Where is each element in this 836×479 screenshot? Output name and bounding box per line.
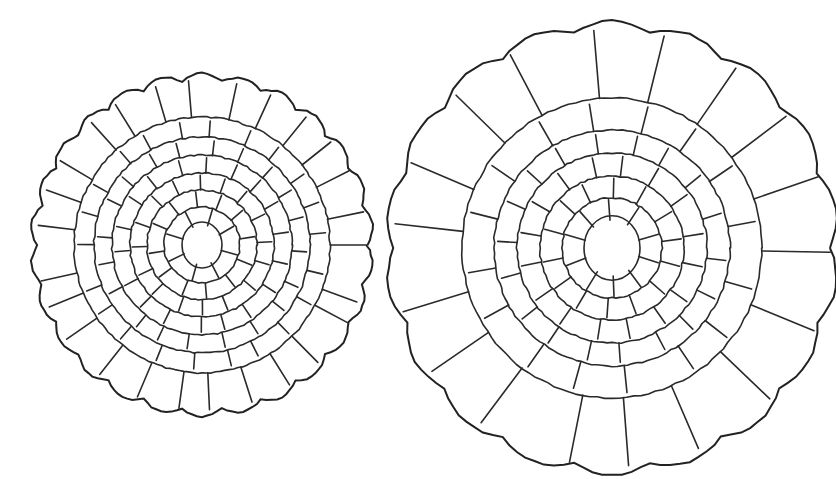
cell-wall xyxy=(284,281,298,287)
cell-wall xyxy=(143,136,151,150)
small-root-section xyxy=(31,73,373,418)
cell-wall xyxy=(592,158,596,178)
cell-wall xyxy=(660,261,679,266)
cell-wall xyxy=(250,180,260,191)
cell-wall xyxy=(297,297,311,305)
central-cell xyxy=(182,222,222,268)
cell-wall xyxy=(432,333,488,372)
cell-wall xyxy=(613,178,614,198)
cell-wall xyxy=(316,171,349,188)
cell-wall xyxy=(152,284,163,294)
cell-wall xyxy=(703,213,722,219)
cell-wall xyxy=(209,121,210,137)
cell-wall xyxy=(237,191,247,202)
cell-wall xyxy=(129,197,142,206)
cell-wall xyxy=(607,298,608,318)
cell-wall xyxy=(292,336,318,362)
cell-wall xyxy=(125,279,139,286)
cell-wall xyxy=(179,297,184,311)
cell-wall xyxy=(492,166,515,182)
cell-wall xyxy=(87,285,102,291)
cell-wall xyxy=(291,174,304,183)
cell-wall xyxy=(229,84,237,120)
cell-wall xyxy=(228,350,232,366)
cell-wall xyxy=(327,212,363,219)
cell-wall xyxy=(169,254,184,261)
cell-wall xyxy=(150,154,157,167)
cell-wall xyxy=(278,322,289,334)
cell-wall xyxy=(250,321,258,334)
cell-wall xyxy=(237,259,251,265)
cell-wall xyxy=(485,305,509,318)
cell-wall xyxy=(265,202,278,210)
cell-wall xyxy=(270,354,290,385)
cell-wall xyxy=(556,149,566,166)
cell-wall xyxy=(153,223,167,229)
cell-wall xyxy=(683,263,703,267)
figure-canvas xyxy=(0,0,836,479)
cell-wall xyxy=(302,142,331,165)
cell-wall xyxy=(648,36,664,102)
cell-wall xyxy=(120,152,131,164)
cell-wall xyxy=(620,157,622,177)
cell-wall xyxy=(471,212,498,219)
cell-wall xyxy=(222,296,228,310)
cell-wall xyxy=(164,310,171,324)
cell-wall xyxy=(539,122,553,146)
cell-wall xyxy=(705,321,727,338)
cell-wall xyxy=(47,190,82,202)
cell-wall xyxy=(167,234,183,239)
cell-wall xyxy=(222,333,225,347)
cell-wall xyxy=(156,345,162,360)
cell-wall xyxy=(754,177,819,199)
cell-wall xyxy=(697,290,715,299)
cell-wall xyxy=(136,223,150,228)
cell-wall xyxy=(654,307,666,323)
cell-wall xyxy=(292,251,307,252)
cell-ring-boundary xyxy=(462,98,763,399)
cell-wall xyxy=(149,251,164,253)
cell-wall xyxy=(576,291,586,308)
cell-wall xyxy=(173,182,179,195)
cell-wall xyxy=(303,202,318,208)
cell-wall xyxy=(510,55,542,115)
cell-wall xyxy=(117,227,132,230)
cell-wall xyxy=(636,187,646,204)
cell-wall xyxy=(609,200,611,221)
cell-wall xyxy=(245,131,251,146)
cell-wall xyxy=(176,144,180,158)
cell-wall xyxy=(598,319,601,339)
cell-wall xyxy=(680,129,696,152)
cell-wall xyxy=(273,232,288,234)
cell-wall xyxy=(521,233,541,236)
cell-wall xyxy=(221,315,225,330)
cell-wall xyxy=(655,212,672,222)
large-root-section xyxy=(387,20,836,475)
cell-wall xyxy=(532,202,549,212)
cell-wall xyxy=(656,332,665,349)
cell-wall xyxy=(152,196,163,206)
cell-wall xyxy=(498,241,518,242)
cell-wall xyxy=(67,318,97,339)
cell-wall xyxy=(322,289,357,302)
cell-wall xyxy=(139,269,152,275)
cell-wall xyxy=(109,287,122,294)
cell-ring-boundary xyxy=(562,198,663,298)
central-cell xyxy=(584,216,640,280)
cell-wall xyxy=(528,344,544,367)
cell-wall xyxy=(156,87,166,122)
cell-wall xyxy=(92,123,117,150)
cell-wall xyxy=(180,123,183,139)
cell-wall xyxy=(671,195,687,207)
cell-wall xyxy=(221,250,237,255)
cell-wall xyxy=(279,190,292,198)
cell-wall xyxy=(189,81,192,118)
cell-wall xyxy=(182,280,188,294)
cell-wall xyxy=(671,386,698,449)
cell-wall xyxy=(226,275,236,287)
cell-wall xyxy=(216,195,222,209)
cell-wall xyxy=(522,262,542,266)
cell-wall xyxy=(41,273,77,281)
cell-wall xyxy=(251,214,264,221)
cell-wall xyxy=(272,261,287,264)
